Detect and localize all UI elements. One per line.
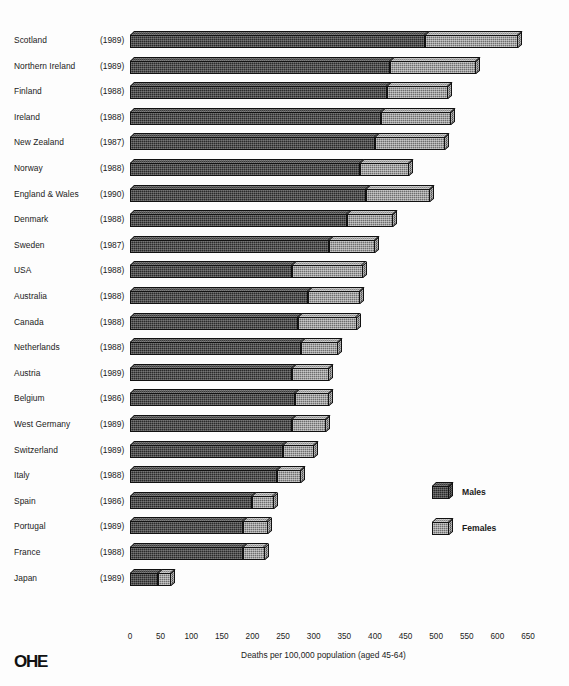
year-label: (1989) [100,28,130,52]
ohe-logo: OHE [14,652,47,672]
year-label: (1986) [100,489,130,513]
year-label: (1988) [100,207,130,231]
bar-segment-females [347,214,393,227]
bar-segment-females [243,521,267,534]
bar-segment-males [130,470,277,483]
year-label: (1988) [100,79,130,103]
bar-row: Canada(1988) [0,310,569,334]
bar-segment-females [298,317,356,330]
bar-segment-females [360,163,409,176]
bar-segment-males [130,214,347,227]
year-label: (1989) [100,514,130,538]
bar-chart: Scotland(1989)Northern Ireland(1989)Finl… [0,0,569,686]
bar-row: Ireland(1988) [0,105,569,129]
year-label: (1987) [100,233,130,257]
bar-segment-females [387,86,448,99]
bar-segment-females [252,496,273,509]
bar-row: USA(1988) [0,258,569,282]
bar-segment-males [130,35,425,48]
year-label: (1986) [100,386,130,410]
country-label: USA [14,258,102,282]
country-label: Canada [14,310,102,334]
chart-legend: Males Females [432,478,562,550]
bar-row: Australia(1988) [0,284,569,308]
bar-segment-males [130,342,301,355]
bar-segment-females [308,291,360,304]
bar-row: Northern Ireland(1989) [0,54,569,78]
x-tick-label: 100 [176,632,206,641]
country-label: West Germany [14,412,102,436]
x-tick-label: 600 [482,632,512,641]
country-label: Ireland [14,105,102,129]
bar-segment-males [130,419,292,432]
x-tick-label: 250 [268,632,298,641]
bar-segment-males [130,112,381,125]
bar-segment-males [130,265,292,278]
x-tick-label: 450 [391,632,421,641]
x-tick-label: 500 [421,632,451,641]
bar-segment-females [390,61,476,74]
bar-segment-males [130,240,329,253]
bar-segment-females [243,547,264,560]
bar-row: New Zealand(1987) [0,130,569,154]
bar-row: Switzerland(1989) [0,438,569,462]
bar-segment-males [130,189,366,202]
x-tick-label: 0 [115,632,145,641]
country-label: New Zealand [14,130,102,154]
legend-item-females: Females [432,514,562,542]
bar-segment-males [130,163,360,176]
bar-row: West Germany(1989) [0,412,569,436]
bar-row: Scotland(1989) [0,28,569,52]
year-label: (1988) [100,156,130,180]
country-label: France [14,540,102,564]
bar-segment-males [130,496,252,509]
x-axis-title-text: Deaths per 100,000 population (aged 45-6… [241,650,406,660]
bar-row: Finland(1988) [0,79,569,103]
country-label: Belgium [14,386,102,410]
bar-segment-females [292,419,326,432]
bar-row: Japan(1989) [0,566,569,590]
males-swatch-icon [432,482,453,499]
bar-segment-males [130,445,283,458]
females-swatch-icon [432,518,453,535]
bar-row: Denmark(1988) [0,207,569,231]
bar-segment-females [158,573,171,586]
x-tick-label: 550 [452,632,482,641]
year-label: (1990) [100,182,130,206]
legend-item-males: Males [432,478,562,506]
bar-segment-males [130,137,375,150]
bar-row: Austria(1989) [0,361,569,385]
year-label: (1989) [100,438,130,462]
country-label: Scotland [14,28,102,52]
x-tick-label: 200 [237,632,267,641]
country-label: Austria [14,361,102,385]
country-label: Japan [14,566,102,590]
country-label: Australia [14,284,102,308]
x-tick-label: 50 [146,632,176,641]
country-label: Northern Ireland [14,54,102,78]
bar-segment-females [375,137,445,150]
bar-segment-males [130,317,298,330]
x-tick-label: 400 [360,632,390,641]
country-label: Sweden [14,233,102,257]
bar-segment-females [301,342,338,355]
bar-segment-males [130,61,390,74]
legend-label-females: Females [462,514,496,542]
bar-segment-males [130,547,243,560]
bar-segment-males [130,573,158,586]
year-label: (1988) [100,284,130,308]
bar-segment-females [329,240,375,253]
bar-segment-females [283,445,314,458]
country-label: Finland [14,79,102,103]
bar-row: Belgium(1986) [0,386,569,410]
country-label: Netherlands [14,335,102,359]
bar-segment-males [130,521,243,534]
bar-row: England & Wales(1990) [0,182,569,206]
x-axis: 050100150200250300350400450500550600650 [0,632,569,648]
x-tick-label: 150 [207,632,237,641]
bar-segment-males [130,291,308,304]
bar-segment-females [292,368,329,381]
bar-segment-males [130,86,387,99]
year-label: (1988) [100,463,130,487]
x-tick-label: 350 [329,632,359,641]
